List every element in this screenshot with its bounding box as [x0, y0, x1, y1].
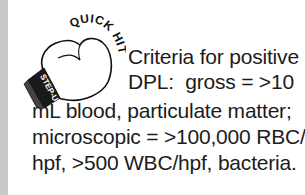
- callout-text-line: mL blood, particulate matter;: [32, 99, 292, 123]
- quick-hit-badge: STEP-UP QUICK HIT: [14, 10, 126, 108]
- boxing-glove-icon: STEP-UP QUICK HIT: [14, 10, 126, 108]
- callout-text-line: DPL: gross = >10: [128, 70, 294, 94]
- callout-text-line: microscopic = >100,000 RBC/: [32, 125, 305, 149]
- side-accent-bar: [0, 0, 8, 195]
- callout-text-line: hpf, >500 WBC/hpf, bacteria.: [32, 151, 297, 175]
- callout-text-line: Criteria for positive: [128, 45, 299, 69]
